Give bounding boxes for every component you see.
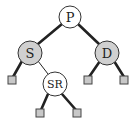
leaf-sr-right <box>73 109 81 117</box>
leaf-s-left <box>8 76 16 84</box>
edge-sr-left-leaf <box>41 94 48 110</box>
tree-leaves <box>8 76 128 117</box>
edge-s-sr <box>38 61 48 74</box>
tree-edges <box>13 24 124 110</box>
node-label-s: S <box>26 46 35 61</box>
tree-node-s: S <box>18 41 42 65</box>
node-label-d: D <box>102 46 112 61</box>
edge-d-left-leaf <box>89 61 100 77</box>
tree-node-sr: SR <box>43 72 67 96</box>
node-label-sr: SR <box>47 78 64 91</box>
leaf-d-right <box>120 76 128 84</box>
tree-node-p: P <box>59 6 81 28</box>
tree-node-d: D <box>95 41 119 65</box>
edge-p-s <box>38 24 62 44</box>
edge-sr-right-leaf <box>62 94 76 110</box>
edge-p-d <box>78 24 99 44</box>
leaf-sr-left <box>36 109 44 117</box>
red-black-tree-diagram: P S D SR <box>0 0 137 128</box>
edge-d-right-leaf <box>114 61 124 77</box>
node-label-p: P <box>66 10 75 25</box>
leaf-d-left <box>84 76 92 84</box>
edge-s-leaf <box>13 61 22 77</box>
